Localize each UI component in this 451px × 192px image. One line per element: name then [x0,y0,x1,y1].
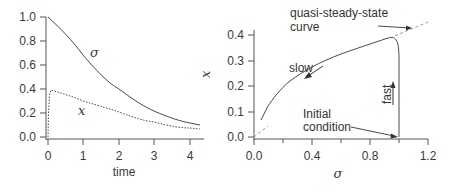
left-ytick-label: 0.0 [19,130,36,144]
left-xtick-label: 4 [187,149,194,163]
left-ytick-label: 0.6 [19,58,36,72]
left-ytick-label: 0.4 [19,82,36,96]
right-ytick-label: 0.1 [227,105,244,119]
right-x-ticks [254,139,428,145]
sigma-curve [48,17,200,125]
left-x-axis-label: time [113,165,136,179]
left-ytick-label: 0.8 [19,34,36,48]
initial-condition-line2: condition [303,120,351,134]
fast-arrowhead-icon [391,81,396,88]
right-xtick-label: 1.2 [420,149,437,163]
left-ytick-label: 1.0 [19,10,36,24]
right-ytick-label: 0.4 [227,28,244,42]
right-xtick-label: 0.8 [362,149,379,163]
left-xtick-label: 3 [151,149,158,163]
qss-label-line2: curve [290,20,320,34]
left-ytick-label: 0.2 [19,106,36,120]
slow-label: slow [289,61,313,75]
qss-arrowhead-icon [406,26,412,31]
left-xtick-label: 0 [45,149,52,163]
initial-condition-arrowhead-icon [391,134,399,139]
left-plot: 1.0 0.8 0.6 0.4 0.2 0.0 0 1 2 3 4 time σ… [19,10,204,179]
right-ytick-label: 0.0 [227,130,244,144]
right-plot: 0.4 0.3 0.2 0.1 0.0 x 0.0 0.4 0.8 1.2 σ … [198,6,437,181]
qss-curve-upper [390,22,428,38]
right-x-axis-label: σ [334,166,344,181]
right-ytick-label: 0.2 [227,79,244,93]
left-x-ticks [48,139,190,145]
left-xtick-label: 2 [116,149,123,163]
right-ytick-label: 0.3 [227,54,244,68]
qss-arrow [378,26,410,28]
right-xtick-label: 0.0 [246,149,263,163]
left-y-ticks [40,17,46,137]
x-curve-label: x [78,103,86,118]
figure: 1.0 0.8 0.6 0.4 0.2 0.0 0 1 2 3 4 time σ… [0,0,451,192]
qss-curve [254,126,268,137]
x-curve [48,90,200,137]
right-xtick-label: 0.4 [304,149,321,163]
right-y-axis-label: x [198,70,213,78]
right-y-ticks [248,35,254,137]
initial-condition-line1: Initial [303,107,331,121]
sigma-curve-label: σ [90,45,100,60]
left-xtick-label: 1 [80,149,87,163]
initial-condition-arrow [351,127,394,136]
qss-label-line1: quasi-steady-state [290,6,388,20]
